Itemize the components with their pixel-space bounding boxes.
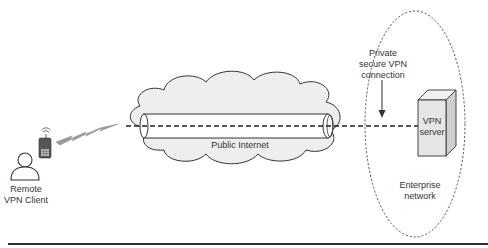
enterprise-network-label: Enterprise network bbox=[395, 180, 445, 202]
public-internet-label: Public Internet bbox=[200, 140, 280, 151]
remote-vpn-client-label: Remote VPN Client bbox=[2, 184, 50, 206]
label-line: VPN Client bbox=[2, 195, 50, 206]
label-line: network bbox=[395, 191, 445, 202]
label-line: VPN bbox=[418, 116, 446, 127]
private-vpn-connection-label: Private secure VPN connection bbox=[346, 48, 420, 81]
label-line: Enterprise bbox=[395, 180, 445, 191]
vpn-server-label: VPN server bbox=[418, 116, 446, 138]
label-line: connection bbox=[346, 70, 420, 81]
label-line: Private bbox=[346, 48, 420, 59]
label-line: secure VPN bbox=[346, 59, 420, 70]
person-icon bbox=[11, 153, 39, 180]
label-line: Remote bbox=[2, 184, 50, 195]
wireless-link-icon bbox=[56, 124, 118, 145]
bottom-divider bbox=[8, 243, 488, 245]
mobile-phone-icon bbox=[39, 128, 51, 158]
annotation-arrow-icon bbox=[379, 80, 386, 118]
vpn-diagram bbox=[0, 0, 488, 248]
label-line: Public Internet bbox=[200, 140, 280, 151]
label-line: server bbox=[418, 127, 446, 138]
